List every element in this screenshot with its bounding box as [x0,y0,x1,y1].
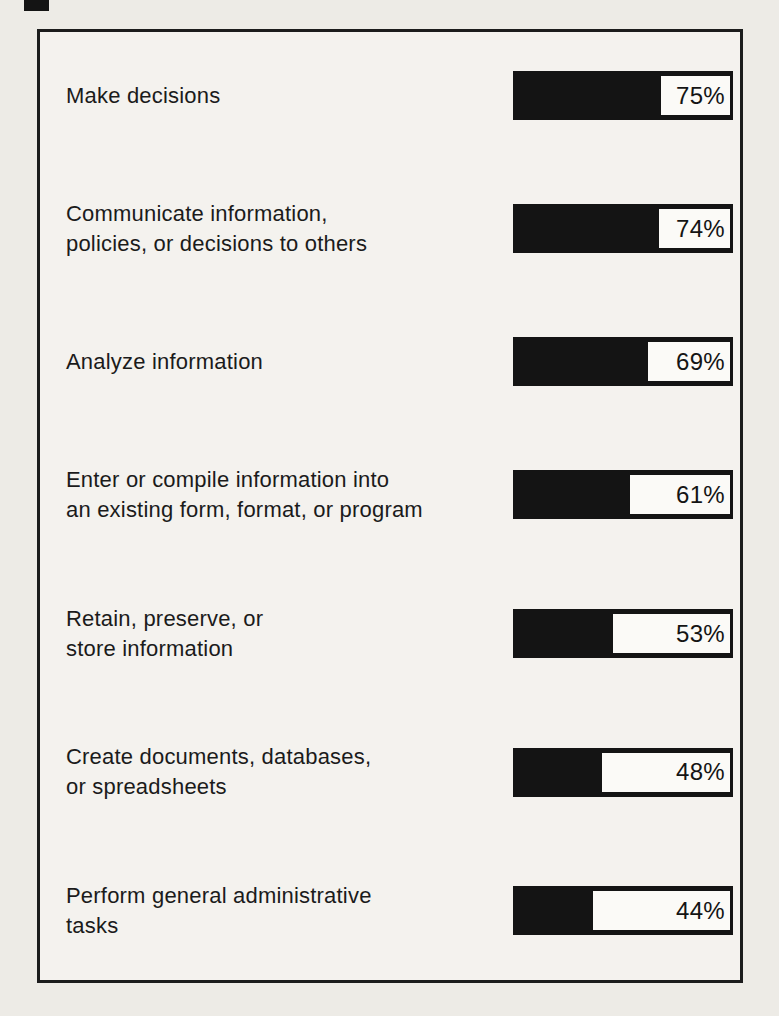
bar-value: 75% [676,82,725,110]
chart-row: Analyze information 69% [40,337,740,386]
chart-frame: Make decisions 75% Communicate informati… [37,29,743,983]
bar-value: 74% [676,215,725,243]
bar-value: 69% [676,348,725,376]
bar: 74% [513,204,733,253]
chart-row: Enter or compile information into an exi… [40,465,740,525]
task-label: Create documents, databases, or spreadsh… [66,742,513,802]
bar-value-box: 75% [658,73,733,118]
bar-value-box: 48% [599,750,733,795]
task-label: Communicate information, policies, or de… [66,199,513,259]
bar-value-box: 74% [656,206,733,251]
chart-row: Retain, preserve, or store information 5… [40,604,740,664]
bar-value: 44% [676,897,725,925]
task-label: Perform general administrative tasks [66,881,513,941]
bar-value-box: 53% [610,611,733,656]
task-label: Retain, preserve, or store information [66,604,513,664]
task-label: Analyze information [66,347,513,377]
bar-value-box: 69% [645,339,733,384]
task-label: Make decisions [66,81,513,111]
bar: 48% [513,748,733,797]
chart-row: Perform general administrative tasks 44% [40,881,740,941]
bar-value: 48% [676,758,725,786]
bar-value-box: 61% [627,472,733,517]
bar-value: 53% [676,620,725,648]
bar-value-box: 44% [590,888,733,933]
bar-value: 61% [676,481,725,509]
chart-row: Communicate information, policies, or de… [40,199,740,259]
bar: 44% [513,886,733,935]
bar: 61% [513,470,733,519]
scan-corner-mark [24,0,49,11]
bar: 69% [513,337,733,386]
bar: 53% [513,609,733,658]
task-label: Enter or compile information into an exi… [66,465,513,525]
chart-row: Make decisions 75% [40,71,740,120]
chart-row: Create documents, databases, or spreadsh… [40,742,740,802]
bar: 75% [513,71,733,120]
